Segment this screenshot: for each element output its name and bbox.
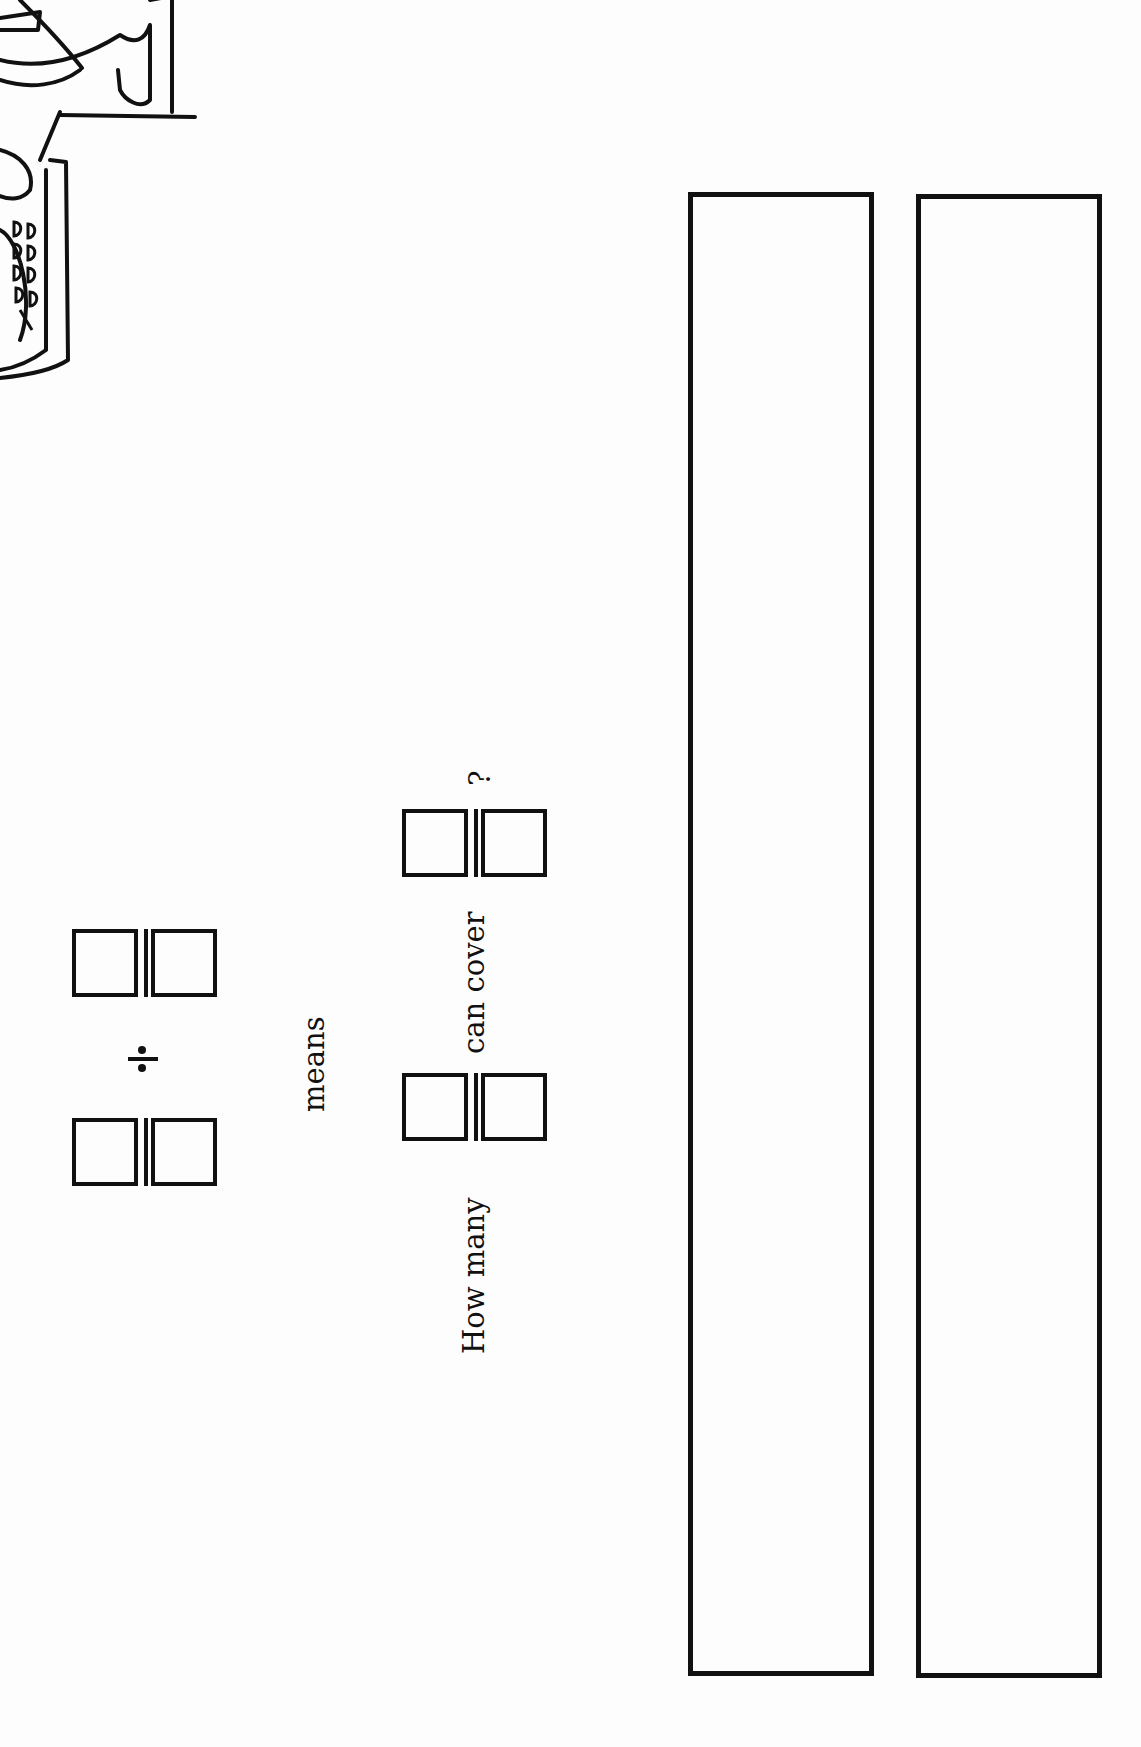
- fraction-b-numerator-box[interactable]: [402, 809, 468, 877]
- fraction-bar: [144, 929, 148, 997]
- divisor-numerator-box[interactable]: [72, 929, 138, 997]
- fraction-a-denominator-box[interactable]: [481, 1073, 547, 1141]
- fraction-bar: [144, 1118, 148, 1186]
- fraction-a-numerator-box[interactable]: [402, 1073, 468, 1141]
- dividend-numerator-box[interactable]: [72, 1118, 138, 1186]
- dividend-denominator-box[interactable]: [151, 1118, 217, 1186]
- question-suffix: ?: [466, 770, 495, 786]
- question-middle: can cover: [460, 911, 489, 1054]
- model-bar-2[interactable]: [916, 194, 1102, 1678]
- fraction-bar: [474, 809, 478, 877]
- model-bar-1[interactable]: [688, 192, 874, 1676]
- fraction-bar: [474, 1073, 478, 1141]
- division-sign-icon: ÷: [128, 1044, 158, 1074]
- fraction-b-denominator-box[interactable]: [481, 809, 547, 877]
- divisor-denominator-box[interactable]: [151, 929, 217, 997]
- means-label: means: [300, 1016, 329, 1112]
- cartoon-illustration: [0, 0, 200, 380]
- question-prefix: How many: [460, 1197, 489, 1354]
